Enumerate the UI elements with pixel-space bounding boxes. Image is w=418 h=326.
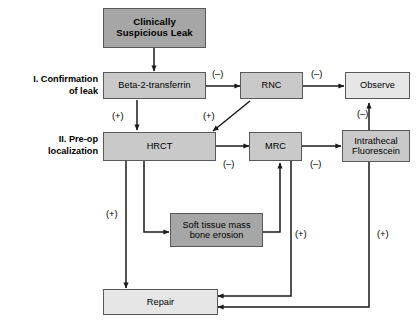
edge-label-mrc-to-fluorescein: (–) bbox=[310, 158, 321, 169]
node-soft-tissue-mass[interactable]: Soft tissue mass bone erosion bbox=[170, 213, 263, 247]
edge-hrct-to-soft-tissue bbox=[144, 161, 169, 232]
node-observe[interactable]: Observe bbox=[345, 72, 410, 99]
edge-label-hrct-to-mrc: (–) bbox=[223, 158, 234, 169]
stage-label-localization-line2: localization bbox=[6, 146, 98, 158]
stage-label-localization: II. Pre-op localization bbox=[6, 134, 98, 157]
stage-label-confirmation-line2: of leak bbox=[6, 86, 98, 98]
node-clinically-suspicious-leak-line2: Suspicious Leak bbox=[116, 28, 192, 39]
node-beta-2-transferrin[interactable]: Beta-2-transferrin bbox=[103, 72, 206, 99]
node-soft-tissue-mass-line1: Soft tissue mass bbox=[182, 220, 250, 230]
edge-label-fluorescein-to-repair: (+) bbox=[377, 228, 389, 239]
node-repair[interactable]: Repair bbox=[103, 289, 218, 315]
edge-label-fluorescein-to-observe: (–) bbox=[357, 108, 368, 119]
node-repair-label: Repair bbox=[147, 297, 174, 307]
stage-label-localization-line1: II. Pre-op bbox=[6, 134, 98, 146]
edge-rnc-to-hrct bbox=[213, 101, 250, 131]
edge-label-mrc-to-repair: (+) bbox=[295, 228, 307, 239]
node-clinically-suspicious-leak[interactable]: Clinically Suspicious Leak bbox=[103, 8, 206, 48]
stage-label-confirmation-line1: I. Confirmation bbox=[6, 74, 98, 86]
edge-label-hrct-to-repair: (+) bbox=[106, 208, 118, 219]
flowchart-diagram: I. Confirmation of leak II. Pre-op local… bbox=[0, 0, 418, 326]
node-mrc[interactable]: MRC bbox=[249, 132, 302, 161]
node-hrct[interactable]: HRCT bbox=[103, 132, 216, 161]
node-soft-tissue-mass-line2: bone erosion bbox=[182, 230, 250, 240]
edge-label-rnc-to-observe: (–) bbox=[311, 68, 322, 79]
node-intrathecal-fluorescein-line1: Intrathecal bbox=[352, 136, 400, 146]
flowchart-edges bbox=[0, 0, 418, 326]
node-mrc-label: MRC bbox=[265, 141, 286, 151]
edge-label-b2t-to-rnc: (–) bbox=[212, 68, 223, 79]
node-hrct-label: HRCT bbox=[147, 141, 173, 151]
node-rnc[interactable]: RNC bbox=[240, 72, 303, 99]
edge-label-b2t-to-hrct: (+) bbox=[112, 110, 124, 121]
node-observe-label: Observe bbox=[360, 80, 395, 90]
edge-label-rnc-to-hrct: (+) bbox=[203, 110, 215, 121]
stage-label-confirmation: I. Confirmation of leak bbox=[6, 74, 98, 97]
node-beta-2-transferrin-label: Beta-2-transferrin bbox=[118, 80, 190, 90]
edge-soft-tissue-to-mrc bbox=[263, 163, 280, 232]
node-rnc-label: RNC bbox=[261, 80, 281, 90]
node-intrathecal-fluorescein-line2: Fluorescein bbox=[352, 146, 400, 156]
node-intrathecal-fluorescein[interactable]: Intrathecal Fluorescein bbox=[342, 130, 410, 162]
